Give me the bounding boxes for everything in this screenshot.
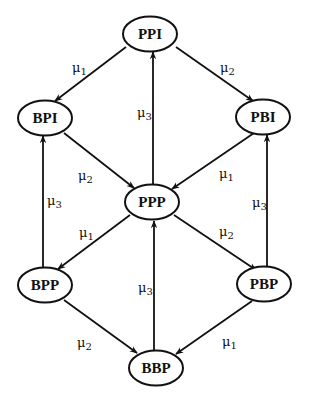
rate-label-bpp-to-bpi: μ3 <box>47 193 62 210</box>
node-ppp: PPP <box>125 185 179 220</box>
edge-ppi-to-bpi <box>55 47 126 101</box>
edge-ppi-to-pbi <box>176 47 253 101</box>
edge-bpi-to-ppp <box>64 133 134 188</box>
rate-label-bbp-to-ppp: μ3 <box>138 280 153 297</box>
node-pbi: PBI <box>236 100 290 135</box>
rate-label-ppp-to-ppi: μ3 <box>137 105 152 122</box>
rate-label-ppi-to-bpi: μ1 <box>72 60 87 77</box>
state-diagram: μ1μ2μ3μ2μ1μ3μ3μ1μ2μ3μ2μ1 PPIBPIPBIPPPBPP… <box>0 0 309 401</box>
node-label: PPI <box>138 26 162 42</box>
edge-ppp-to-pbp <box>174 215 256 270</box>
node-label: BPI <box>32 110 57 126</box>
node-ppi: PPI <box>123 17 177 52</box>
rate-label-ppi-to-pbi: μ2 <box>220 60 235 77</box>
rate-label-pbi-to-ppp: μ1 <box>219 166 234 183</box>
node-bpi: BPI <box>18 101 72 136</box>
node-label: BBP <box>141 360 170 376</box>
node-label: BPP <box>31 277 59 293</box>
node-bbp: BBP <box>129 351 183 386</box>
node-bpp: BPP <box>18 268 72 303</box>
rate-label-bpp-to-bbp: μ2 <box>77 335 92 352</box>
edge-bpp-to-bbp <box>64 300 137 353</box>
rate-label-bpi-to-ppp: μ2 <box>78 168 93 185</box>
rate-label-ppp-to-bpp: μ1 <box>79 225 94 242</box>
rate-label-pbp-to-bbp: μ1 <box>222 334 237 351</box>
edge-ppp-to-bpp <box>58 215 130 269</box>
node-pbp: PBP <box>237 267 291 302</box>
edge-pbp-to-bbp <box>176 301 252 354</box>
edge-pbi-to-ppp <box>172 133 254 189</box>
node-label: PBP <box>250 276 278 292</box>
node-label: PPP <box>138 194 166 210</box>
node-label: PBI <box>250 109 275 125</box>
rate-label-ppp-to-pbp: μ2 <box>219 224 234 241</box>
rate-label-pbp-to-pbi: μ3 <box>252 195 267 212</box>
